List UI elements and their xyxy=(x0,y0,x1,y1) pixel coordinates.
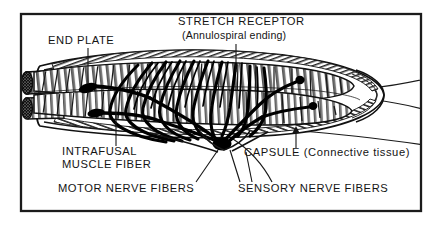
label-motor-nerve-fibers: MOTOR NERVE FIBERS xyxy=(58,182,194,194)
diagram-canvas: END PLATE STRETCH RECEPTOR (Annulospiral… xyxy=(0,0,434,226)
label-annulospiral-ending: (Annulospiral ending) xyxy=(182,29,286,41)
label-intrafusal-line1: INTRAFUSAL xyxy=(62,145,137,157)
label-capsule: CAPSULE (Connective tissue) xyxy=(244,146,410,158)
muscle-fiber-cut-end-lower xyxy=(22,98,33,119)
label-sensory-nerve-fibers: SENSORY NERVE FIBERS xyxy=(238,182,388,194)
label-end-plate: END PLATE xyxy=(48,34,114,46)
label-stretch-receptor: STRETCH RECEPTOR xyxy=(178,15,305,27)
muscle-spindle-figure: END PLATE STRETCH RECEPTOR (Annulospiral… xyxy=(0,0,434,226)
label-intrafusal-line2: MUSCLE FIBER xyxy=(62,158,151,170)
muscle-fiber-cut-end-upper xyxy=(21,72,32,94)
